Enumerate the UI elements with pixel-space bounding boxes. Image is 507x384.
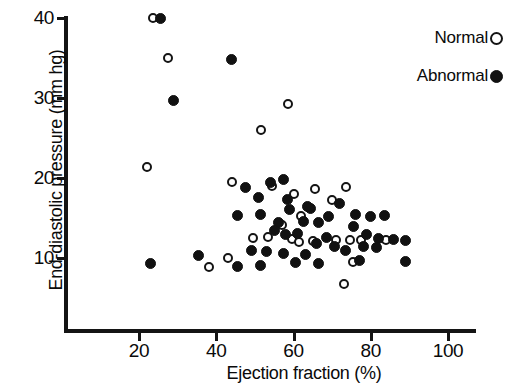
data-point-normal-3 <box>283 99 293 109</box>
x-tick-label-80: 80 <box>349 341 393 360</box>
data-point-abnormal-35 <box>261 246 272 257</box>
data-point-abnormal-22 <box>350 209 361 220</box>
legend-item-abnormal: Abnormal <box>402 66 507 104</box>
data-point-abnormal-6 <box>265 177 276 188</box>
legend-label-abnormal: Abnormal <box>417 66 488 86</box>
data-point-abnormal-25 <box>348 221 359 232</box>
x-tick-label-60: 60 <box>272 341 316 360</box>
data-point-normal-25 <box>339 279 349 289</box>
data-point-abnormal-41 <box>255 260 266 271</box>
data-point-abnormal-20 <box>323 211 334 222</box>
data-point-normal-2 <box>142 162 152 172</box>
data-point-normal-21 <box>345 235 355 245</box>
data-point-abnormal-5 <box>240 182 251 193</box>
data-point-normal-5 <box>227 177 237 187</box>
data-point-abnormal-29 <box>321 232 332 243</box>
data-point-abnormal-28 <box>388 234 399 245</box>
data-point-abnormal-44 <box>193 250 204 261</box>
data-point-abnormal-42 <box>400 235 411 246</box>
data-point-abnormal-3 <box>278 174 289 185</box>
data-point-abnormal-24 <box>379 210 390 221</box>
data-point-normal-4 <box>256 125 266 135</box>
data-point-abnormal-14 <box>305 203 316 214</box>
data-point-abnormal-19 <box>292 228 303 239</box>
data-point-abnormal-40 <box>232 261 243 272</box>
data-point-abnormal-36 <box>278 248 289 259</box>
data-point-normal-7 <box>204 262 214 272</box>
data-point-abnormal-7 <box>253 192 264 203</box>
data-point-abnormal-32 <box>358 241 369 252</box>
data-point-abnormal-12 <box>284 204 295 215</box>
data-point-normal-19 <box>248 233 258 243</box>
data-point-normal-10 <box>310 184 320 194</box>
data-point-abnormal-45 <box>354 255 365 266</box>
data-point-normal-1 <box>163 53 173 63</box>
data-point-abnormal-4 <box>145 258 156 269</box>
data-point-abnormal-26 <box>361 229 372 240</box>
data-point-abnormal-30 <box>311 238 322 249</box>
x-axis-line <box>64 329 476 333</box>
x-axis-title: Ejection fraction (%) <box>164 363 444 383</box>
data-point-abnormal-17 <box>269 225 280 236</box>
legend-marker-open-circle-icon <box>490 32 503 45</box>
data-point-normal-11 <box>341 182 351 192</box>
data-point-abnormal-8 <box>232 210 243 221</box>
data-point-abnormal-43 <box>400 256 411 267</box>
data-point-abnormal-21 <box>334 198 345 209</box>
data-point-abnormal-46 <box>340 245 351 256</box>
legend: Normal Abnormal <box>402 28 507 104</box>
data-point-abnormal-18 <box>280 229 291 240</box>
data-point-abnormal-33 <box>371 242 382 253</box>
data-point-abnormal-38 <box>290 257 301 268</box>
data-point-abnormal-31 <box>329 241 340 252</box>
data-point-abnormal-37 <box>300 249 311 260</box>
x-tick-label-100: 100 <box>426 341 470 360</box>
y-axis-title: End-diastolic pressure (mm hg) <box>46 20 66 320</box>
x-tick-label-40: 40 <box>194 341 238 360</box>
data-point-abnormal-9 <box>255 209 266 220</box>
data-point-abnormal-34 <box>246 245 257 256</box>
data-point-abnormal-23 <box>365 211 376 222</box>
data-point-normal-8 <box>223 253 233 263</box>
data-point-abnormal-2 <box>168 95 179 106</box>
legend-marker-filled-circle-icon <box>490 70 503 83</box>
data-point-abnormal-39 <box>313 258 324 269</box>
legend-item-normal: Normal <box>402 28 507 66</box>
data-point-abnormal-0 <box>155 13 166 24</box>
data-point-abnormal-1 <box>226 54 237 65</box>
data-point-abnormal-15 <box>298 216 309 227</box>
legend-label-normal: Normal <box>434 28 488 48</box>
x-tick-label-20: 20 <box>117 341 161 360</box>
